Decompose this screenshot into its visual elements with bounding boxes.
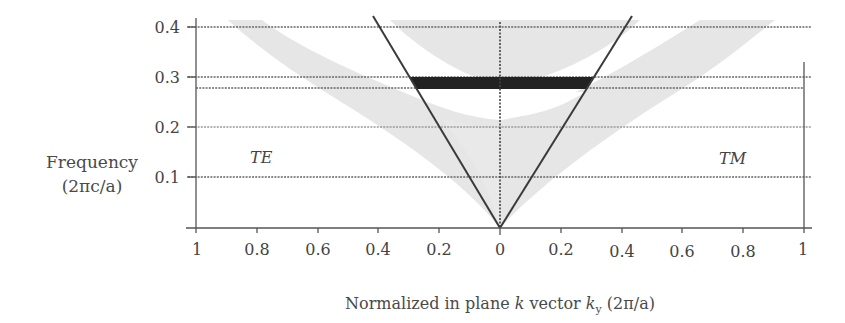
x-tick-label: 1 [798, 240, 808, 259]
y-tick-label: 0.3 [155, 68, 180, 87]
y-axis-label-line2: (2πc/a) [32, 174, 152, 198]
x-tick-label: 1 [192, 240, 202, 259]
x-axis-label-pre: Normalized in plane [345, 294, 515, 313]
y-axis-label-line1: Frequency [32, 150, 152, 174]
x-axis-label-post: (2π/a) [602, 294, 655, 313]
x-tick-label: 0.2 [548, 240, 573, 259]
te-bands-shading [228, 20, 500, 228]
x-tick-label: 0.6 [669, 242, 694, 261]
y-tick-labels: 0.4 0.3 0.2 0.1 [155, 18, 180, 187]
y-tick-label: 0.2 [155, 118, 180, 137]
y-axis-label: Frequency (2πc/a) [32, 150, 152, 198]
y-tick-label: 0.1 [155, 168, 180, 187]
x-tick-label: 0.2 [426, 240, 451, 259]
y-tick-label: 0.4 [155, 18, 180, 37]
x-tick-label: 0 [495, 240, 505, 259]
band-gap-bar [409, 77, 593, 89]
x-tick-label: 0.4 [609, 242, 634, 261]
x-tick-label: 0.6 [305, 240, 330, 259]
x-tick-label: 0.4 [365, 240, 390, 259]
te-label: TE [250, 148, 273, 167]
x-tick-label: 0.8 [730, 242, 755, 261]
tm-bands-shading [500, 20, 775, 228]
tm-label: TM [719, 149, 747, 168]
x-tick-labels: 1 0.8 0.6 0.4 0.2 0 0.2 0.4 0.6 0.8 1 [192, 240, 808, 261]
x-axis-label-k: k [515, 294, 525, 313]
x-axis-label: Normalized in plane k vector ky (2π/a) [345, 294, 655, 316]
x-axis-label-mid: vector [524, 294, 585, 313]
x-tick-label: 0.8 [244, 240, 269, 259]
